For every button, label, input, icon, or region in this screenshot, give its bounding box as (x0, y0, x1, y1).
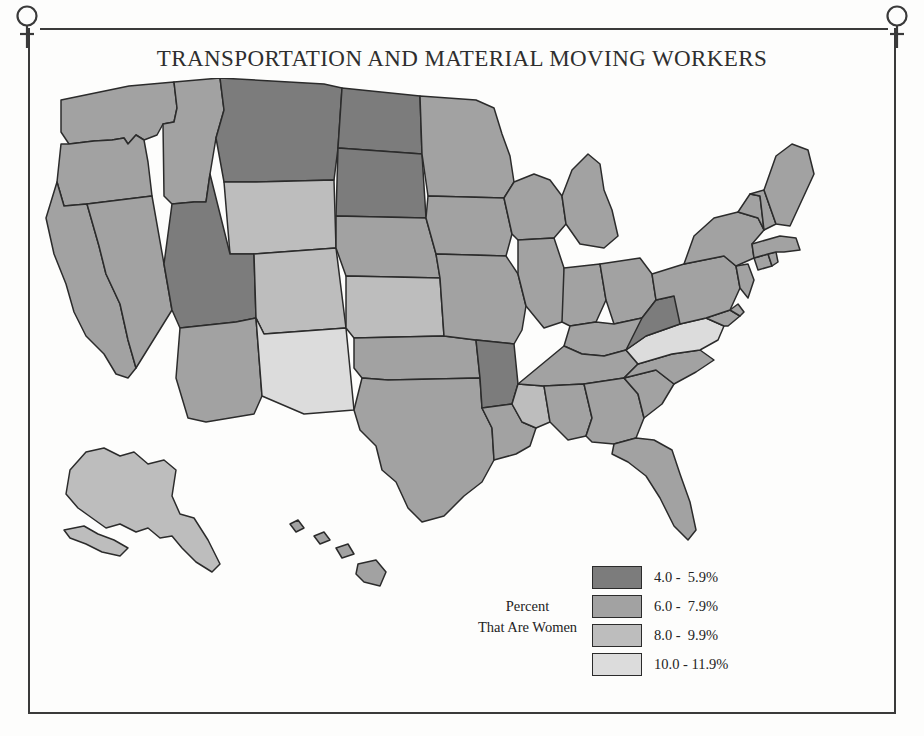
state-in (562, 264, 606, 326)
legend-label: 6.0 - 7.9% (654, 598, 718, 615)
frame-bottom-line (28, 712, 896, 714)
legend-swatch (592, 566, 642, 589)
state-mn (420, 96, 514, 198)
page-title: TRANSPORTATION AND MATERIAL MOVING WORKE… (0, 46, 924, 72)
state-wy (224, 180, 336, 254)
legend-swatch (592, 595, 642, 618)
venus-symbol-icon (10, 4, 44, 50)
choropleth-map (24, 78, 904, 648)
state-nj (736, 264, 754, 298)
states-layer (46, 78, 814, 586)
state-mt (216, 78, 342, 182)
state-hi (356, 560, 386, 586)
state-mo (436, 254, 526, 344)
legend-caption-line1: Percent (470, 596, 585, 617)
map-page: TRANSPORTATION AND MATERIAL MOVING WORKE… (0, 0, 924, 736)
state-fl (612, 438, 696, 540)
state-wi (504, 174, 566, 240)
state-co (254, 248, 346, 334)
legend-label: 8.0 - 9.9% (654, 627, 718, 644)
state-ks (346, 276, 444, 338)
state-tx (354, 378, 494, 522)
legend-label: 10.0 - 11.9% (654, 656, 728, 673)
legend-swatch (592, 653, 642, 676)
state-nd (338, 88, 422, 154)
legend-caption: Percent That Are Women (470, 596, 585, 638)
state-ok (354, 336, 480, 380)
state-hi (336, 544, 354, 558)
state-or (57, 135, 152, 206)
state-ne (336, 216, 440, 278)
state-al (544, 384, 592, 440)
legend-swatch (592, 624, 642, 647)
frame-top-line (40, 28, 888, 30)
state-ak (64, 526, 128, 556)
legend-caption-line2: That Are Women (470, 617, 585, 638)
state-wa (61, 82, 177, 144)
state-ak (66, 448, 220, 572)
state-ar (476, 340, 518, 408)
state-az (176, 318, 262, 422)
state-hi (314, 532, 330, 544)
venus-symbol-icon (880, 4, 914, 50)
legend-label: 4.0 - 5.9% (654, 569, 718, 586)
state-ia (426, 196, 512, 256)
state-mi (562, 154, 618, 248)
state-hi (290, 520, 304, 532)
state-sd (336, 148, 426, 218)
map-legend: Percent That Are Women 4.0 - 5.9%6.0 - 7… (470, 566, 770, 682)
